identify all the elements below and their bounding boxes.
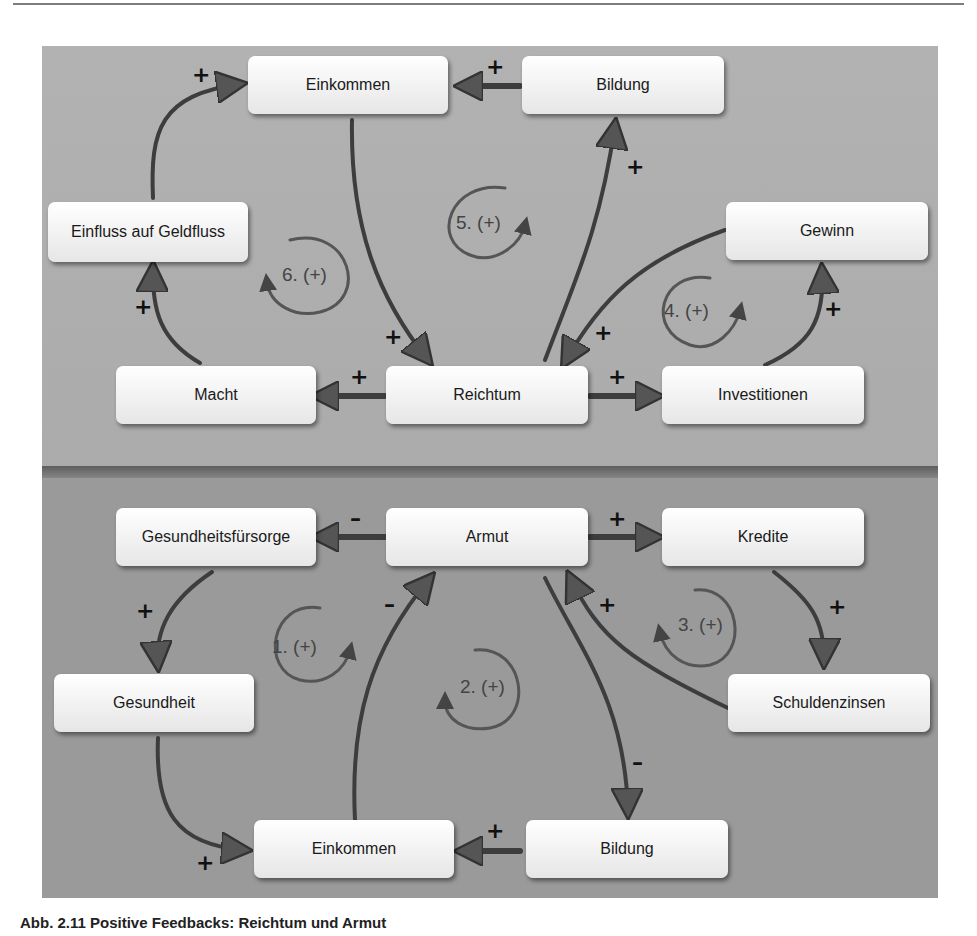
arrow-gewinn-reichtum (565, 230, 725, 362)
arrow-investitionen-gewinn (765, 270, 822, 365)
loop-label-5: 5. (+) (456, 212, 501, 234)
sign-kredite-schuldenzinsen: + (828, 596, 846, 618)
node-einkommen-bottom: Einkommen (254, 820, 454, 878)
sign-einkommen-armut: – (384, 594, 395, 616)
sign-gesundheitsfuersorge-gesundheit: + (136, 600, 154, 622)
node-investitionen: Investitionen (662, 366, 864, 424)
sign-gesundheit-einkommen: + (196, 852, 214, 874)
node-kredite: Kredite (662, 508, 864, 566)
arrow-schuldenzinsen-armut (570, 577, 728, 708)
sign-reichtum-bildung: + (626, 156, 644, 178)
node-einkommen-top: Einkommen (248, 56, 448, 114)
sign-reichtum-macht: + (350, 366, 368, 388)
arrow-macht-einfluss (153, 268, 200, 363)
loop-label-3: 3. (+) (678, 614, 723, 636)
node-gesundheit: Gesundheit (54, 674, 254, 732)
sign-einfluss-einkommen: + (192, 64, 210, 86)
sign-reichtum-investitionen: + (608, 366, 626, 388)
arrow-gesundheitsfuersorge-gesundheit (158, 572, 212, 665)
node-gesundheitsfuersorge: Gesundheitsfürsorge (116, 508, 316, 566)
node-bildung-top: Bildung (522, 56, 724, 114)
sign-einkommen-reichtum: + (384, 326, 402, 348)
sign-gewinn-reichtum: + (594, 322, 612, 344)
node-macht: Macht (116, 366, 316, 424)
sign-schuldenzinsen-armut: + (598, 594, 616, 616)
node-gewinn: Gewinn (726, 202, 928, 260)
sign-investitionen-gewinn: + (824, 298, 842, 320)
loop-label-1: 1. (+) (272, 636, 317, 658)
sign-armut-kredite: + (608, 508, 626, 530)
figure-caption: Abb. 2.11 Positive Feedbacks: Reichtum u… (20, 914, 386, 931)
node-reichtum: Reichtum (386, 366, 588, 424)
node-bildung-bottom: Bildung (526, 820, 728, 878)
sign-macht-einfluss: + (134, 296, 152, 318)
arrow-kredite-schuldenzinsen (774, 572, 824, 662)
loop-label-6: 6. (+) (282, 264, 327, 286)
sign-armut-bildung: – (632, 752, 643, 774)
node-einfluss-auf-geldfluss: Einfluss auf Geldfluss (48, 202, 248, 262)
sign-armut-gesundheitsfuersorge: – (350, 508, 361, 530)
sign-bildung-einkommen-bottom: + (486, 820, 504, 842)
loop-label-2: 2. (+) (460, 676, 505, 698)
arrow-layer (0, 0, 977, 936)
arrow-gesundheit-einkommen (158, 738, 245, 850)
loop-label-4: 4. (+) (664, 300, 709, 322)
sign-bildung-einkommen: + (486, 56, 504, 78)
node-armut: Armut (386, 508, 588, 566)
arrow-einfluss-einkommen (153, 84, 240, 198)
node-schuldenzinsen: Schuldenzinsen (728, 674, 930, 732)
